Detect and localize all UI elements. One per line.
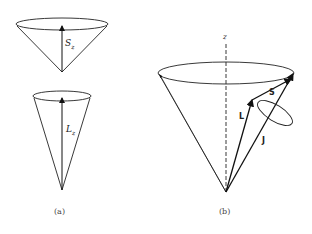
caption-b: (b)	[219, 207, 230, 216]
label-vector-l: L	[239, 112, 244, 121]
upper-cone-sz	[16, 18, 108, 72]
caption-a: (a)	[54, 207, 65, 216]
label-z-axis: z	[223, 33, 227, 41]
label-vector-j: J	[262, 136, 265, 145]
lower-cone-lz	[33, 91, 91, 190]
diagram-canvas	[0, 0, 312, 234]
label-s-z: Sz	[65, 38, 74, 50]
label-l-z: Lz	[66, 124, 75, 136]
label-vector-s: S	[269, 88, 275, 97]
coupling-cone	[158, 44, 296, 192]
precession-ellipse	[254, 96, 296, 131]
